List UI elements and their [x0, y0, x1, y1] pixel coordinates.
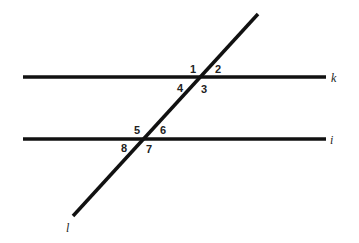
angle-label-2: 2 [215, 63, 221, 75]
transversal-line-l [73, 14, 258, 216]
angle-label-7: 7 [146, 143, 152, 155]
line-label-i: i [330, 133, 333, 147]
angle-label-1: 1 [190, 63, 196, 75]
transversal-diagram: 1 2 3 4 5 6 7 8 k i l [0, 0, 359, 243]
angle-label-5: 5 [134, 124, 140, 136]
angle-label-3: 3 [201, 83, 207, 95]
angle-label-8: 8 [121, 142, 127, 154]
angle-label-6: 6 [160, 124, 166, 136]
line-label-k: k [331, 71, 337, 85]
angle-label-4: 4 [177, 82, 184, 94]
line-label-l: l [66, 221, 70, 235]
